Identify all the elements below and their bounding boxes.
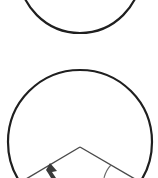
- diagram-canvas: [0, 0, 158, 178]
- angle-arc: [104, 165, 111, 178]
- angle-right-line: [80, 147, 135, 178]
- bottom-circle: [8, 70, 152, 178]
- geometry-diagram: [0, 0, 158, 178]
- top-circle: [19, 0, 141, 33]
- arrowhead-icon: [46, 163, 57, 178]
- angle-left-line: [26, 147, 80, 178]
